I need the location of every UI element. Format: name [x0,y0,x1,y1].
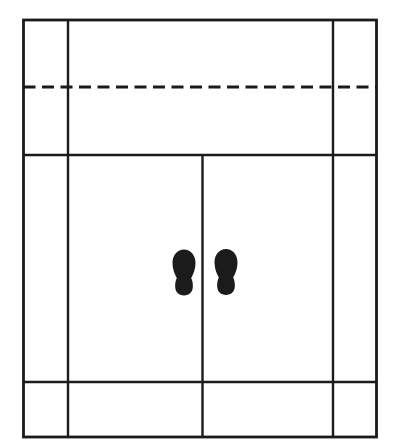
left-footprint-icon [173,250,196,296]
diagram-canvas [0,0,395,447]
outer-wall-rect [24,20,377,437]
floor-plan-diagram [0,0,395,447]
right-footprint-icon [215,249,238,295]
